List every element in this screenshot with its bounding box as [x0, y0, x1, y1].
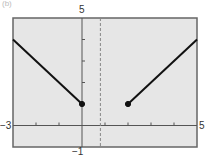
- plot-frame: [13, 18, 197, 147]
- x-max-label: 5: [199, 121, 205, 131]
- x-min-label: −3: [0, 121, 11, 131]
- y-max-label: 5: [79, 5, 85, 15]
- chart: [0, 0, 209, 157]
- left-piece-endpoint: [79, 101, 84, 106]
- panel-label: (b): [2, 0, 12, 8]
- y-min-label: −1: [72, 147, 83, 157]
- right-piece-endpoint: [125, 101, 130, 106]
